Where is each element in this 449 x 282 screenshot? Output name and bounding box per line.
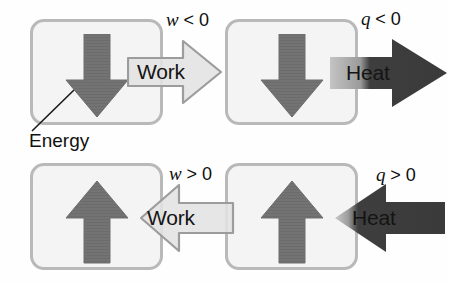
sign-label-q-gt-0: q > 0	[376, 165, 416, 184]
sign-symbol-q-top: q	[361, 8, 371, 29]
sign-label-w-lt-0: w < 0	[166, 10, 209, 29]
sign-symbol-w-top: w	[166, 9, 179, 30]
sign-relation-top-right: < 0	[375, 9, 401, 29]
leader-line-icon	[28, 86, 92, 134]
sign-relation-top-left: < 0	[183, 10, 209, 30]
sign-symbol-q-bottom: q	[376, 164, 386, 185]
arrow-down-icon	[259, 34, 325, 118]
sign-label-w-gt-0: w > 0	[169, 164, 212, 183]
sign-label-q-lt-0: q < 0	[361, 9, 401, 28]
sign-relation-bottom-left: > 0	[186, 164, 212, 184]
heat-flow-arrow-bottom-right: Heat	[334, 182, 446, 254]
heat-label-top-right: Heat	[346, 62, 390, 83]
work-label-top-left: Work	[137, 61, 185, 82]
energy-callout-label: Energy	[29, 131, 89, 150]
sign-symbol-w-bottom: w	[169, 163, 182, 184]
work-label-bottom-left: Work	[147, 207, 195, 228]
heat-flow-arrow-top-right: Heat	[330, 38, 448, 108]
heat-label-bottom-right: Heat	[352, 207, 396, 228]
arrow-up-icon	[64, 180, 130, 264]
thermodynamics-sign-convention-diagram: Work w < 0 Energy Heat	[0, 0, 449, 282]
work-flow-arrow-top-left: Work	[127, 39, 223, 106]
sign-relation-bottom-right: > 0	[390, 165, 416, 185]
arrow-up-icon	[259, 180, 325, 264]
work-flow-arrow-bottom-left: Work	[139, 183, 235, 254]
